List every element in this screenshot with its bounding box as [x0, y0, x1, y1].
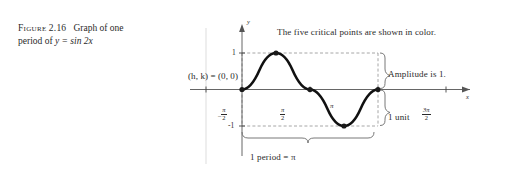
critical-point-min [341, 123, 346, 128]
y-axis-arrow [239, 24, 245, 32]
three-half-pi-numerator: 3π [422, 107, 431, 114]
critical-point-mid [307, 87, 312, 92]
critical-point-end [375, 87, 380, 92]
y-axis-label: y [247, 18, 250, 25]
y-tick-label-neg-1: -1 [228, 122, 234, 130]
x-tick-label-pi: π [330, 102, 334, 110]
figure-container: Figure 2.16 Graph of one period of y = s… [0, 0, 506, 172]
x-axis-label: x [466, 93, 469, 100]
x-axis-arrow [462, 87, 470, 93]
half-pi-numerator: π [280, 107, 285, 114]
x-axis [190, 87, 470, 93]
caption-equation: y = sin 2x [55, 36, 93, 46]
caption-line-1: Graph of one [73, 23, 123, 33]
period-brace-shape [242, 132, 374, 143]
three-half-pi-denominator: 2 [422, 115, 431, 122]
x-tick-label-half-pi: π 2 [280, 104, 285, 122]
caption-line-2-prefix: period of [18, 36, 55, 46]
neg-half-pi-numerator: π [221, 107, 226, 114]
period-brace [237, 130, 242, 135]
unit-note: 1 unit [388, 113, 410, 122]
x-tick-label-3-half-pi: 3π 2 [422, 104, 431, 122]
half-pi-denominator: 2 [280, 115, 285, 122]
sine-graph: The five critical points are shown in co… [170, 8, 506, 172]
critical-point-max [273, 50, 278, 55]
y-tick-label-1: 1 [232, 49, 236, 57]
x-tick-label-neg-half-pi: – π 2 [218, 104, 227, 122]
figure-caption: Figure 2.16 Graph of one period of y = s… [18, 22, 158, 48]
caption-figure-number: 2.16 [49, 23, 66, 33]
neg-half-pi-denominator: 2 [221, 115, 226, 122]
critical-points-note: The five critical points are shown in co… [277, 28, 436, 37]
caption-figure-word: Figure [18, 23, 46, 33]
vertex-label: (h, k) = (0, 0) [188, 72, 238, 81]
period-note: 1 period = π [250, 153, 296, 162]
amplitude-note: Amplitude is 1. [388, 70, 446, 79]
critical-point-0 [239, 87, 244, 92]
